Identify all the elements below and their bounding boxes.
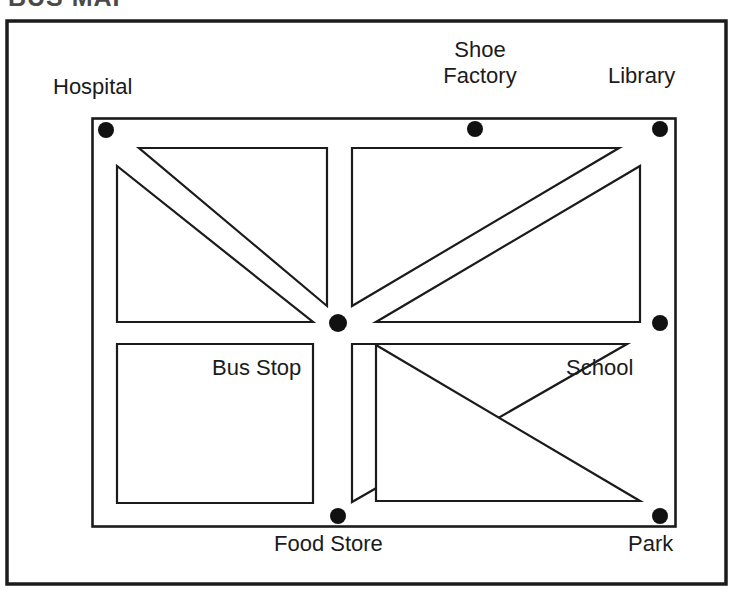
label-shoe-factory-line1: Shoe bbox=[420, 37, 540, 63]
bus-stop-dot-library[interactable] bbox=[652, 121, 668, 137]
bus-stop-dot-shoe-factory[interactable] bbox=[467, 121, 483, 137]
label-hospital: Hospital bbox=[53, 74, 132, 100]
label-school: School bbox=[566, 355, 633, 381]
bus-stop-dot-park[interactable] bbox=[652, 508, 668, 524]
label-library: Library bbox=[608, 63, 675, 89]
label-shoe-factory-line2: Factory bbox=[420, 63, 540, 89]
bus-map-screenshot: BUS MAP Hospital Shoe Factory Library Bu… bbox=[0, 0, 753, 602]
bus-stop-dot-food-store[interactable] bbox=[330, 508, 346, 524]
bus-stop-dot-school[interactable] bbox=[652, 315, 668, 331]
label-bus-stop: Bus Stop bbox=[212, 355, 301, 381]
bus-stop-dot-hospital[interactable] bbox=[98, 122, 114, 138]
label-food-store: Food Store bbox=[274, 531, 383, 557]
bus-stop-dot-center[interactable] bbox=[329, 314, 347, 332]
label-park: Park bbox=[628, 531, 673, 557]
